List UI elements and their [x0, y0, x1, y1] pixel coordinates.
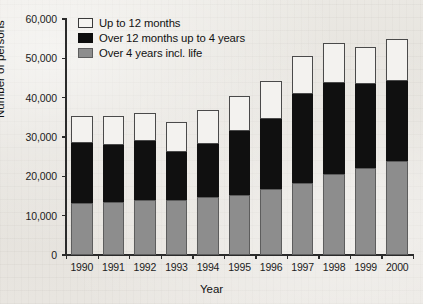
y-tick-mark — [62, 215, 66, 216]
x-tick-label: 1998 — [323, 261, 346, 273]
x-tick-mark — [287, 255, 288, 259]
x-tick-mark — [129, 255, 130, 259]
bar-1999[interactable] — [355, 19, 377, 255]
x-tick-label: 1996 — [260, 261, 283, 273]
bar-segment[interactable] — [103, 116, 125, 145]
bar-segment[interactable] — [229, 195, 251, 255]
x-tick-label: 1995 — [228, 261, 251, 273]
y-tick-label: 60,000 — [25, 13, 57, 25]
x-tick-label: 1991 — [102, 261, 125, 273]
bar-segment[interactable] — [292, 56, 314, 94]
bar-segment[interactable] — [166, 122, 188, 152]
legend-label: Over 4 years incl. life — [99, 47, 202, 59]
x-tick-label: 1997 — [291, 261, 314, 273]
bar-segment[interactable] — [134, 113, 156, 142]
legend-item[interactable]: Over 12 months up to 4 years — [78, 31, 245, 45]
x-axis-title: Year — [0, 283, 423, 295]
bar-segment[interactable] — [323, 174, 345, 255]
bar-segment[interactable] — [386, 81, 408, 161]
bar-segment[interactable] — [292, 183, 314, 255]
bar-segment[interactable] — [166, 152, 188, 200]
bar-segment[interactable] — [71, 116, 93, 144]
x-tick-mark — [381, 255, 382, 259]
x-tick-mark — [318, 255, 319, 259]
bar-segment[interactable] — [134, 200, 156, 255]
y-tick-label: 10,000 — [25, 210, 57, 222]
x-tick-mark — [192, 255, 193, 259]
y-tick-mark — [62, 136, 66, 137]
bar-1997[interactable] — [292, 19, 314, 255]
x-tick-label: 1993 — [165, 261, 188, 273]
bar-segment[interactable] — [355, 84, 377, 169]
y-axis-title: Number of persons — [0, 20, 6, 118]
x-tick-mark — [161, 255, 162, 259]
bar-segment[interactable] — [386, 39, 408, 81]
bar-segment[interactable] — [229, 96, 251, 131]
bar-segment[interactable] — [166, 200, 188, 255]
bar-1996[interactable] — [260, 19, 282, 255]
x-tick-label: 1994 — [197, 261, 220, 273]
x-tick-mark — [224, 255, 225, 259]
y-tick-mark — [62, 58, 66, 59]
bar-segment[interactable] — [103, 145, 125, 202]
chart-legend: Up to 12 monthsOver 12 months up to 4 ye… — [78, 16, 245, 60]
bar-segment[interactable] — [103, 202, 125, 255]
bar-chart-figure: Number of persons Year 010,00020,00030,0… — [0, 0, 423, 304]
bar-segment[interactable] — [260, 119, 282, 190]
legend-item[interactable]: Up to 12 months — [78, 16, 245, 30]
legend-item[interactable]: Over 4 years incl. life — [78, 46, 245, 60]
bar-segment[interactable] — [197, 197, 219, 255]
bar-segment[interactable] — [134, 141, 156, 200]
bar-segment[interactable] — [229, 131, 251, 195]
y-tick-mark — [62, 18, 66, 19]
bar-segment[interactable] — [386, 161, 408, 255]
bar-segment[interactable] — [355, 168, 377, 255]
legend-swatch-gray — [78, 48, 93, 58]
x-tick-label: 1992 — [134, 261, 157, 273]
bar-segment[interactable] — [323, 43, 345, 83]
x-tick-label: 2000 — [386, 261, 409, 273]
bar-segment[interactable] — [260, 189, 282, 255]
x-tick-label: 1999 — [354, 261, 377, 273]
y-tick-label: 0 — [51, 249, 57, 261]
x-tick-label: 1990 — [70, 261, 93, 273]
x-tick-mark — [255, 255, 256, 259]
y-tick-mark — [62, 97, 66, 98]
y-tick-label: 30,000 — [25, 131, 57, 143]
x-tick-mark — [413, 255, 414, 259]
x-tick-mark — [66, 255, 67, 259]
x-tick-mark — [350, 255, 351, 259]
bar-segment[interactable] — [260, 81, 282, 118]
bar-segment[interactable] — [197, 144, 219, 197]
legend-swatch-black — [78, 33, 93, 43]
bar-segment[interactable] — [71, 143, 93, 203]
y-tick-label: 50,000 — [25, 52, 57, 64]
bar-2000[interactable] — [386, 19, 408, 255]
bar-segment[interactable] — [292, 94, 314, 183]
y-tick-mark — [62, 176, 66, 177]
legend-label: Up to 12 months — [99, 17, 180, 29]
bar-segment[interactable] — [71, 203, 93, 255]
legend-swatch-white — [78, 18, 93, 28]
bar-segment[interactable] — [355, 47, 377, 84]
legend-label: Over 12 months up to 4 years — [99, 32, 245, 44]
bar-segment[interactable] — [197, 110, 219, 143]
x-tick-mark — [98, 255, 99, 259]
y-tick-label: 20,000 — [25, 170, 57, 182]
bar-segment[interactable] — [323, 83, 345, 174]
bar-1998[interactable] — [323, 19, 345, 255]
y-tick-label: 40,000 — [25, 92, 57, 104]
